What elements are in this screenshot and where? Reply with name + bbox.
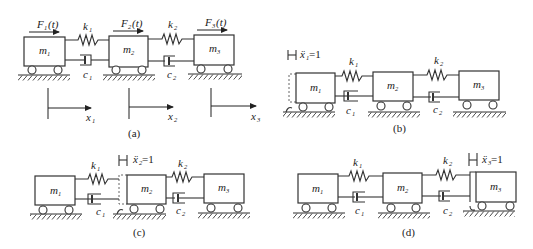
ground-3 (198, 213, 250, 219)
svg-text:c: c (355, 204, 360, 216)
force-f2: F 2 (t) (113, 17, 143, 31)
mass-m1: m 1 (296, 73, 335, 111)
svg-text:m: m (123, 43, 131, 55)
ground-2 (378, 213, 430, 219)
spring-k1: k 1 (338, 156, 383, 181)
svg-text:2: 2 (449, 160, 453, 167)
spring-k1: k 1 (335, 55, 373, 81)
svg-text:m: m (387, 79, 395, 91)
svg-text:(t): (t) (132, 17, 143, 30)
svg-text:m: m (141, 182, 149, 194)
ground-3 (463, 211, 515, 217)
panel-c: ẍ 2 =1 m 1 m 2 (30, 153, 250, 239)
svg-text:F: F (120, 17, 128, 29)
svg-text:x: x (167, 110, 173, 122)
svg-text:2: 2 (173, 74, 177, 81)
svg-text:2: 2 (182, 210, 186, 217)
svg-text:ẍ: ẍ (132, 153, 138, 165)
svg-text:1: 1 (352, 110, 355, 117)
mass-m2: m 2 (109, 36, 148, 74)
three-mass-system-figure: m 1 m 2 m 3 k 1 k 2 (0, 0, 533, 249)
spring-k2: k 2 (422, 154, 470, 180)
spring-k2: k 2 (413, 54, 459, 80)
svg-text:ẍ: ẍ (299, 48, 305, 60)
mass-m1: m 1 (298, 174, 338, 212)
svg-text:1: 1 (102, 211, 105, 218)
ground-2 (113, 214, 166, 220)
ground-1 (283, 112, 335, 118)
mass-m3: m 3 (204, 174, 244, 212)
svg-text:c: c (443, 204, 448, 216)
svg-text:c: c (176, 204, 181, 216)
svg-text:c: c (96, 205, 101, 217)
svg-text:2: 2 (440, 60, 444, 67)
svg-text:2: 2 (449, 210, 453, 217)
damper-c1: c 1 (65, 55, 109, 81)
force-f1: F 1 (t) (29, 18, 59, 32)
svg-text:3: 3 (256, 116, 261, 123)
svg-text:c: c (346, 104, 351, 116)
ground-3 (188, 74, 242, 80)
svg-text:m: m (39, 44, 47, 56)
svg-text:ẍ: ẍ (481, 153, 487, 165)
ground-1 (30, 214, 82, 220)
panel-a: m 1 m 2 m 3 k 1 k 2 (18, 16, 261, 140)
mass-m3: m 3 (459, 71, 499, 109)
svg-text:1: 1 (44, 24, 47, 31)
svg-text:F: F (36, 18, 44, 30)
displacement-x2: x 2 (129, 88, 178, 123)
ground-2 (368, 112, 420, 118)
svg-text:c: c (83, 68, 88, 80)
caption-c: (c) (133, 226, 146, 239)
svg-text:1: 1 (320, 188, 323, 195)
svg-text:1: 1 (58, 190, 61, 197)
svg-text:1: 1 (89, 26, 92, 33)
panel-d: ẍ 3 =1 m 1 m 2 (293, 153, 516, 239)
svg-text:=1: =1 (309, 48, 321, 60)
svg-text:1: 1 (318, 87, 321, 94)
svg-text:x: x (250, 110, 256, 122)
svg-text:2: 2 (439, 109, 443, 116)
mass-m1: m 1 (35, 176, 75, 214)
svg-text:1: 1 (89, 74, 92, 81)
svg-text:(t): (t) (48, 18, 59, 31)
ground-1 (18, 75, 70, 81)
damper-c1: c 1 (335, 91, 373, 117)
mass-m2: m 2 (383, 173, 422, 212)
displacement-x1: x 1 (48, 88, 95, 124)
svg-text:1: 1 (359, 162, 362, 169)
svg-text:F: F (204, 16, 212, 28)
svg-text:m: m (473, 78, 481, 90)
ground-1 (293, 213, 345, 219)
spring-k1: k 1 (75, 159, 119, 184)
svg-text:2: 2 (184, 163, 188, 170)
mass-m2: m 2 (127, 175, 166, 213)
force-f3: F 3 (t) (197, 16, 227, 30)
svg-text:m: m (312, 182, 320, 194)
ground-2 (103, 75, 155, 81)
mass-m1: m 1 (24, 37, 65, 74)
svg-text:m: m (310, 81, 318, 93)
svg-text:1: 1 (47, 50, 50, 57)
panel-b: ẍ 1 =1 m 1 m 2 (283, 48, 506, 135)
svg-text:c: c (433, 103, 438, 115)
caption-a: (a) (128, 127, 141, 140)
ground-3 (453, 112, 506, 118)
svg-text:m: m (490, 180, 498, 192)
mass-m2: m 2 (373, 72, 413, 110)
svg-text:m: m (218, 181, 226, 193)
svg-text:=1: =1 (491, 153, 503, 165)
mass-m3: m 3 (194, 35, 234, 73)
svg-text:1: 1 (355, 61, 358, 68)
svg-text:m: m (209, 42, 217, 54)
mass-m3: m 3 (476, 172, 516, 210)
svg-text:2: 2 (174, 116, 178, 123)
caption-d: (d) (402, 226, 415, 239)
caption-b: (b) (393, 122, 406, 135)
svg-text:c: c (167, 68, 172, 80)
svg-text:1: 1 (361, 210, 364, 217)
displacement-x3: x 3 (211, 88, 261, 123)
svg-text:2: 2 (174, 24, 178, 31)
svg-text:x: x (85, 111, 91, 123)
svg-text:1: 1 (97, 165, 100, 172)
